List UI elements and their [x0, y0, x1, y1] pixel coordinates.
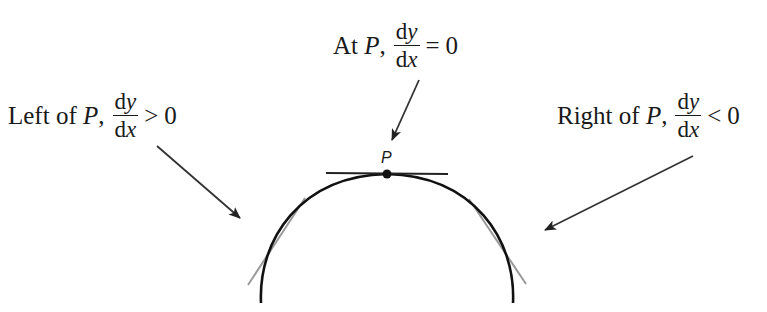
left-derivative-fraction: dy dx — [113, 90, 139, 141]
right-label: Right of P , dy dx < 0 — [557, 90, 740, 141]
right-value: 0 — [727, 103, 740, 128]
left-label-comma: , — [98, 103, 104, 128]
curve — [261, 174, 513, 303]
left-arrow — [157, 146, 240, 218]
top-relation: = — [426, 33, 440, 58]
right-relation: < — [707, 103, 721, 128]
top-label-comma: , — [380, 33, 386, 58]
right-label-prefix: Right of — [557, 103, 646, 128]
point-p-label: P — [381, 150, 392, 166]
top-fraction-numerator: dy — [394, 20, 420, 46]
denominator-text: dx — [115, 117, 137, 142]
denominator-text: dx — [677, 117, 699, 142]
numerator-text: dy — [115, 89, 137, 114]
point-p-dot — [383, 170, 392, 179]
numerator-text: dy — [677, 89, 699, 114]
top-derivative-fraction: dy dx — [394, 20, 420, 71]
turning-point-diagram: P At P , dy dx = 0 Left of P , dy dx > 0… — [0, 0, 767, 312]
right-fraction-numerator: dy — [675, 90, 701, 116]
left-label: Left of P , dy dx > 0 — [8, 90, 177, 141]
right-tangent-line — [469, 199, 526, 284]
numerator-text: dy — [396, 19, 418, 44]
top-label-point: P — [364, 33, 379, 58]
left-tangent-line — [248, 198, 305, 285]
right-label-point: P — [646, 103, 661, 128]
left-fraction-numerator: dy — [113, 90, 139, 116]
left-label-point: P — [83, 103, 98, 128]
denominator-text: dx — [396, 47, 418, 72]
left-relation: > — [144, 103, 158, 128]
right-label-comma: , — [661, 103, 667, 128]
top-fraction-denominator: dx — [394, 46, 420, 71]
top-value: 0 — [446, 33, 459, 58]
right-arrow — [545, 156, 693, 230]
left-label-prefix: Left of — [8, 103, 83, 128]
top-label-prefix: At — [333, 33, 364, 58]
right-fraction-denominator: dx — [675, 116, 701, 141]
left-fraction-denominator: dx — [113, 116, 139, 141]
top-arrow — [392, 80, 419, 140]
right-derivative-fraction: dy dx — [675, 90, 701, 141]
left-value: 0 — [164, 103, 177, 128]
top-label: At P , dy dx = 0 — [333, 20, 458, 71]
